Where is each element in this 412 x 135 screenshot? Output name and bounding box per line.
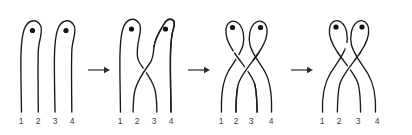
leg-label-2: 2 [337,116,342,126]
basepoint-dot-right [63,28,68,33]
leg-label-1: 1 [219,116,224,126]
arc-left-outer [221,21,257,112]
arc-left [120,19,157,112]
leg-label-4: 4 [269,116,274,126]
arc-right-cap [154,19,174,112]
arrow-head [307,67,313,73]
arrow-head [204,67,210,73]
basepoint-dot-right [258,25,263,30]
arc-right [133,19,174,112]
basepoint-dot-left [230,25,235,30]
leg-label-4: 4 [70,116,75,126]
transition-arrow-3 [291,67,313,73]
leg-label-4: 4 [169,116,174,126]
arc-right-outer [236,21,272,112]
leg-label-3: 3 [249,116,254,126]
arrow-head [104,67,110,73]
panel-4: 1 2 3 4 [320,21,380,126]
leg-label-1: 1 [118,116,123,126]
braid-diagram-figure: 1 2 3 4 1 2 3 4 [0,0,412,135]
arc-left-outer [322,21,347,112]
leg-label-3: 3 [356,116,361,126]
leg-label-1: 1 [320,116,325,126]
arc-right [54,21,75,112]
panel-3: 1 2 3 4 [219,21,274,126]
leg-label-4: 4 [375,116,380,126]
transition-arrow-1 [88,67,110,73]
arc-left [21,21,42,112]
panel-1: 1 2 3 4 [19,21,75,126]
basepoint-dot-right [359,24,364,29]
transition-arrow-2 [188,67,210,73]
leg-label-2: 2 [36,116,41,126]
leg-label-3: 3 [53,116,58,126]
basepoint-dot-left [129,26,134,31]
leg-label-2: 2 [135,116,140,126]
leg-label-3: 3 [152,116,157,126]
basepoint-dot-left [30,28,35,33]
panel-2: 1 2 3 4 [118,19,175,126]
leg-label-1: 1 [19,116,24,126]
leg-label-2: 2 [234,116,239,126]
basepoint-dot-left [333,24,338,29]
basepoint-dot-right [163,26,168,31]
diagram-canvas: 1 2 3 4 1 2 3 4 [0,0,412,135]
